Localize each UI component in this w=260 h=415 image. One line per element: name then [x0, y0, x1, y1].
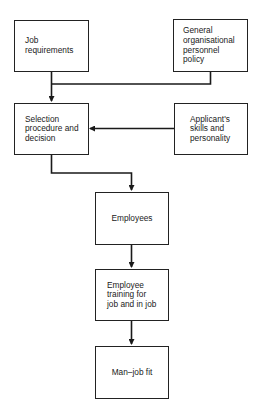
- node-label: Job requirements: [25, 36, 73, 55]
- edge-selection-to-employees: [52, 154, 132, 190]
- node-employees: Employees: [95, 192, 169, 245]
- node-applicant: Applicant's skills and personality: [174, 103, 248, 155]
- node-label: Man–job fit: [112, 368, 153, 378]
- node-selection: Selection procedure and decision: [14, 103, 89, 155]
- node-label: Employees: [111, 214, 152, 224]
- node-general-policy: General organisational personnel policy: [173, 19, 248, 72]
- node-training: Employee training for job and in job: [95, 269, 169, 321]
- node-label: Selection procedure and decision: [25, 115, 79, 144]
- node-label: Employee training for job and in job: [107, 281, 156, 310]
- node-man-job-fit: Man–job fit: [95, 346, 169, 399]
- node-label: Applicant's skills and personality: [190, 115, 230, 144]
- node-label: General organisational personnel policy: [183, 26, 235, 64]
- node-job-requirements: Job requirements: [14, 20, 89, 72]
- edge-policy-to-selection: [52, 71, 211, 84]
- flowchart-diagram: Job requirements General organisational …: [0, 0, 260, 415]
